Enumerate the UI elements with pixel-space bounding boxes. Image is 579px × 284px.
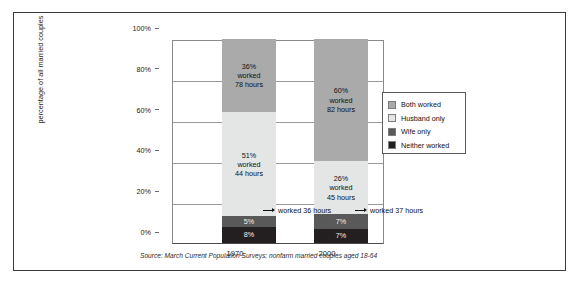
segment-line2: worked: [329, 96, 352, 105]
annotation-1970-arrow-line: [263, 210, 272, 211]
y-tick-mark: [155, 150, 159, 151]
bar-segment-label: 7%: [336, 231, 346, 240]
segment-line2: worked: [237, 160, 260, 169]
y-tick-label: 80%: [137, 64, 151, 73]
bar-segment-label: 36%worked78 hours: [235, 62, 263, 90]
annotation-1970-text: worked 36 hours: [278, 206, 331, 215]
segment-percent: 7%: [336, 231, 346, 240]
segment-percent: 7%: [336, 217, 346, 226]
bar-segment-label: 8%: [244, 230, 254, 239]
y-tick-label: 40%: [137, 146, 151, 155]
source-note: Source: March Current Population Surveys…: [140, 252, 377, 259]
segment-line3: 45 hours: [327, 193, 355, 202]
chart-figure: percentage of all married couples 36%wor…: [0, 0, 579, 284]
segment-line3: 82 hours: [327, 105, 355, 114]
legend-swatch-both-worked: [388, 101, 396, 109]
stacked-bar-1970[interactable]: 36%worked78 hours51%worked44 hours5%8%: [222, 39, 276, 243]
bar-segment-1970-neither[interactable]: 8%: [222, 227, 276, 243]
legend-swatch-neither-worked: [388, 141, 396, 149]
segment-percent: 26%: [334, 174, 348, 183]
y-tick-mark: [155, 68, 159, 69]
y-tick-mark: [155, 191, 159, 192]
y-axis-label: percentage of all married couples: [36, 0, 45, 140]
segment-line2: worked: [237, 71, 260, 80]
legend-label-husband-only: Husband only: [401, 114, 445, 123]
bar-segment-label: 26%worked45 hours: [327, 174, 355, 202]
annotation-2000-arrow-head: [364, 208, 367, 212]
legend-swatch-husband-only: [388, 114, 396, 122]
chart-frame-border: percentage of all married couples 36%wor…: [13, 12, 566, 271]
bar-segment-label: 7%: [336, 217, 346, 226]
bar-segment-2000-both[interactable]: 60%worked82 hours: [314, 39, 368, 161]
y-tick-mark: [155, 109, 159, 110]
segment-percent: 5%: [244, 217, 254, 226]
y-tick-label: 0%: [141, 228, 151, 237]
y-tick-mark: [155, 232, 159, 233]
annotation-2000-arrow-line: [355, 210, 364, 211]
segment-percent: 8%: [244, 230, 254, 239]
bar-segment-1970-both[interactable]: 36%worked78 hours: [222, 39, 276, 112]
legend-label-both-worked: Both worked: [401, 100, 441, 109]
y-tick-label: 100%: [133, 24, 151, 33]
bar-segment-label: 60%worked82 hours: [327, 86, 355, 114]
segment-percent: 51%: [242, 151, 256, 160]
segment-line2: worked: [329, 183, 352, 192]
bar-segment-label: 5%: [244, 217, 254, 226]
annotation-2000-text: worked 37 hours: [370, 206, 423, 215]
bar-segment-2000-neither[interactable]: 7%: [314, 229, 368, 243]
y-tick-mark: [155, 28, 159, 29]
segment-percent: 36%: [242, 62, 256, 71]
segment-line3: 44 hours: [235, 169, 263, 178]
bar-segment-1970-wife[interactable]: 5%: [222, 216, 276, 226]
segment-line3: 78 hours: [235, 80, 263, 89]
legend-swatch-wife-only: [388, 128, 396, 136]
bar-segment-1970-husband[interactable]: 51%worked44 hours: [222, 112, 276, 216]
chart-legend: Both worked Husband only Wife only Neith…: [382, 92, 466, 154]
y-tick-label: 20%: [137, 187, 151, 196]
legend-item-neither-worked[interactable]: Neither worked: [388, 139, 461, 153]
legend-label-wife-only: Wife only: [401, 127, 431, 136]
legend-item-both-worked[interactable]: Both worked: [388, 98, 461, 112]
y-tick-label: 60%: [137, 105, 151, 114]
legend-label-neither-worked: Neither worked: [401, 141, 449, 150]
annotation-1970-arrow-head: [272, 208, 275, 212]
bar-segment-2000-wife[interactable]: 7%: [314, 214, 368, 228]
segment-percent: 60%: [334, 86, 348, 95]
legend-item-wife-only[interactable]: Wife only: [388, 125, 461, 139]
legend-item-husband-only[interactable]: Husband only: [388, 112, 461, 126]
bar-segment-label: 51%worked44 hours: [235, 151, 263, 179]
